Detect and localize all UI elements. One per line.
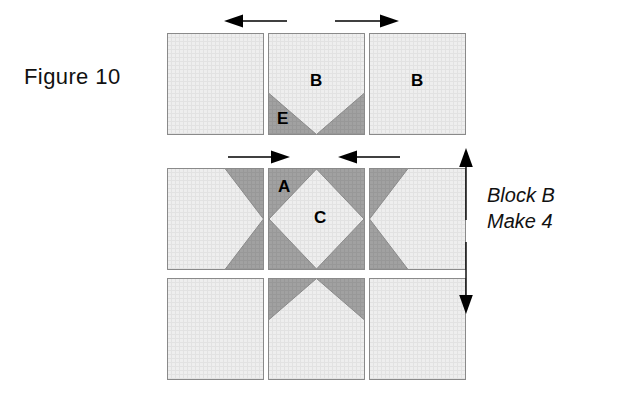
arrow-top-left-pointing-left (224, 14, 288, 28)
patch-label-b-center: B (310, 72, 322, 89)
block-top-left-plain-square (167, 33, 264, 135)
block-bottom-center-flying-geese-up (268, 278, 365, 380)
block-bottom-right-plain-square (369, 278, 466, 380)
block-middle-right-flying-geese-left (369, 168, 466, 270)
patch-label-a: A (278, 178, 290, 195)
figure-canvas: Figure 10 B E B (0, 0, 618, 396)
block-middle-left-flying-geese-right (167, 168, 264, 270)
figure-label: Figure 10 (24, 64, 121, 90)
block-caption: Block B Make 4 (487, 182, 555, 234)
caption-line-2: Make 4 (487, 208, 555, 234)
patch-label-b-right: B (411, 72, 423, 89)
arrow-top-right-pointing-right (335, 14, 399, 28)
caption-line-1: Block B (487, 182, 555, 208)
patch-label-c: C (314, 209, 326, 226)
block-bottom-left-plain-square (167, 278, 264, 380)
arrow-middle-left-pointing-right (228, 150, 290, 164)
patch-label-e: E (277, 110, 288, 127)
arrow-vertical-double (458, 148, 474, 314)
arrow-middle-right-pointing-left (338, 150, 400, 164)
